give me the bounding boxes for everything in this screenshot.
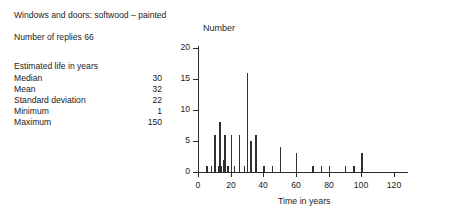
x-tick-label: 80 — [314, 180, 344, 191]
bar — [219, 122, 220, 172]
bar — [206, 166, 207, 172]
bar — [272, 166, 273, 172]
x-tick-label: 60 — [281, 180, 311, 191]
bar — [296, 153, 297, 172]
bar — [234, 166, 235, 172]
bar — [329, 166, 330, 172]
bar — [263, 166, 264, 172]
bar — [244, 166, 245, 172]
bar — [353, 166, 354, 172]
bar — [345, 166, 346, 172]
y-axis-title: Number — [203, 24, 235, 33]
bar — [231, 135, 232, 172]
x-tick — [394, 172, 395, 177]
x-tick — [231, 172, 232, 177]
x-tick — [263, 172, 264, 177]
bar — [211, 166, 212, 172]
x-tick — [296, 172, 297, 177]
figure-panel: Windows and doors: softwood – painted Nu… — [0, 0, 460, 217]
x-tick-label: 40 — [248, 180, 278, 191]
x-tick-label: 0 — [183, 180, 213, 191]
histogram-chart: Number Time in years 0510152002040608010… — [0, 0, 460, 217]
y-tick-label: 20 — [168, 43, 190, 53]
x-axis-title: Time in years — [278, 197, 330, 206]
bar — [250, 141, 251, 172]
x-tick-label: 20 — [216, 180, 246, 191]
x-tick — [329, 172, 330, 177]
x-axis-line — [196, 172, 408, 173]
bar — [280, 147, 281, 172]
bar — [247, 73, 248, 172]
bar — [321, 166, 322, 172]
y-tick-label: 0 — [168, 167, 190, 177]
bar — [224, 135, 225, 172]
y-tick-label: 15 — [168, 74, 190, 84]
bar — [214, 135, 215, 172]
bar — [312, 166, 313, 172]
x-tick-label: 120 — [379, 180, 409, 191]
x-tick — [361, 172, 362, 177]
bar-series — [198, 48, 394, 172]
y-tick-label: 10 — [168, 105, 190, 115]
bar — [227, 166, 228, 172]
bar — [255, 135, 256, 172]
bar — [239, 135, 240, 172]
bar — [361, 153, 362, 172]
x-tick-label: 100 — [346, 180, 376, 191]
x-tick — [198, 172, 199, 177]
y-tick-label: 5 — [168, 136, 190, 146]
